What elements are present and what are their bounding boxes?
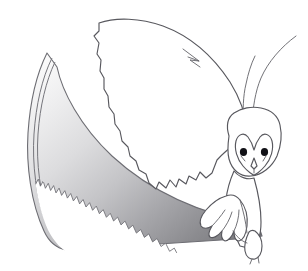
owl-eye-right: [261, 148, 268, 156]
owl-saw-illustration: Barn Owl Carrying a Curved Saw Blade: [0, 0, 308, 271]
owl-eye-left: [240, 148, 247, 156]
illustration-canvas: Barn Owl Carrying a Curved Saw Blade: [0, 0, 308, 271]
